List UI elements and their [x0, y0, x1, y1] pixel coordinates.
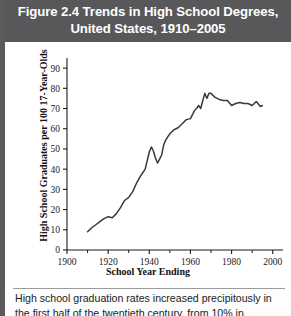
svg-text:10: 10 [51, 225, 61, 235]
figure-container: Figure 2.4 Trends in High School Degrees… [0, 0, 291, 316]
x-axis-ticks: 190019201940196019802000 [58, 250, 283, 267]
y-axis-ticks: 0102030405060708090 [51, 64, 68, 256]
chart-plot-area: High School Graduates per 100 17-Year-Ol… [5, 42, 291, 287]
line-chart: 0102030405060708090 19001920194019601980… [5, 42, 291, 267]
x-axis-label: School Year Ending [5, 266, 291, 277]
title-line-2: United States, 1910–2005 [70, 21, 225, 36]
figure-caption: High school graduation rates increased p… [15, 291, 287, 316]
svg-text:40: 40 [51, 165, 61, 175]
caption-divider [13, 288, 285, 289]
svg-text:50: 50 [51, 144, 61, 154]
svg-text:70: 70 [51, 104, 61, 114]
title-line-1: Figure 2.4 Trends in High School Degrees… [18, 4, 278, 19]
data-series-line [88, 93, 263, 231]
svg-text:80: 80 [51, 84, 61, 94]
caption-line-1: High school graduation rates increased p… [15, 292, 261, 304]
svg-text:0: 0 [55, 245, 60, 255]
svg-text:20: 20 [51, 205, 61, 215]
page-title: Figure 2.4 Trends in High School Degrees… [18, 4, 278, 38]
figure-title-banner: Figure 2.4 Trends in High School Degrees… [5, 0, 291, 42]
svg-text:30: 30 [51, 185, 61, 195]
svg-text:60: 60 [51, 124, 61, 134]
svg-text:90: 90 [51, 64, 61, 74]
